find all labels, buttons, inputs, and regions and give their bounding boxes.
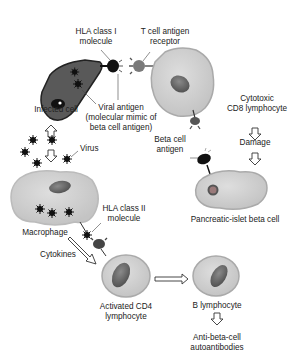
label-autoantibodies: Anti-beta-cell autoantibodies [180, 333, 254, 353]
activated-cd4-cell [91, 238, 150, 297]
t-cell-receptor [129, 52, 155, 74]
label-pancreatic-beta-cell: Pancreatic-islet beta cell [175, 215, 295, 225]
cytotoxic-cd8-cell [151, 48, 213, 129]
label-cytotoxic-cd8: Cytotoxic CD8 lymphocyte [222, 94, 292, 114]
diagram-canvas: HLA class I molecule T cell antigen rece… [0, 0, 300, 357]
hla-class-1-molecule [107, 60, 119, 73]
label-infected-cell: Infected cell [28, 105, 84, 115]
label-activated-cd4: Activated CD4 lymphocyte [94, 302, 158, 322]
label-virus: Virus [80, 144, 99, 154]
label-hla-class-2: HLA class II molecule [96, 204, 152, 224]
label-t-cell-receptor: T cell antigen receptor [130, 27, 200, 47]
label-viral-antigen: Viral antigen (molecular mimic of beta c… [82, 103, 160, 133]
label-b-lymphocyte: B lymphocyte [185, 301, 249, 311]
label-beta-cell-antigen: Beta cell antigen [150, 135, 190, 155]
cd4-to-b-arrow [155, 274, 188, 284]
label-macrophage: Macrophage [17, 228, 73, 238]
label-damage: Damage [235, 138, 275, 148]
b-lymphocyte-cell [193, 256, 239, 296]
label-cytokines: Cytokines [36, 250, 80, 260]
label-hla-class-1: HLA class I molecule [66, 27, 126, 47]
